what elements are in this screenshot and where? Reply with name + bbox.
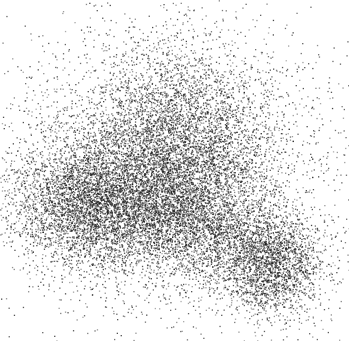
scatter-density-plot [0, 0, 349, 341]
